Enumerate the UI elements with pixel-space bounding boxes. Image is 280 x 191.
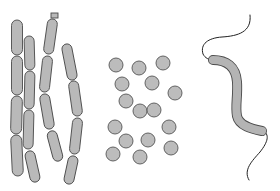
bacillus-cell bbox=[11, 96, 23, 134]
bacilli-chains bbox=[11, 13, 83, 185]
figure-canvas bbox=[0, 0, 280, 191]
coccus-cell bbox=[164, 141, 178, 155]
coccus-cell bbox=[108, 120, 122, 134]
bacillus-cell bbox=[69, 117, 83, 154]
coccus-cell bbox=[119, 134, 133, 148]
coccus-cell bbox=[156, 56, 170, 70]
coccus-cell bbox=[132, 61, 146, 75]
bacillus-cell bbox=[43, 18, 58, 54]
bacillus-cell bbox=[12, 56, 23, 95]
bacillus-cell bbox=[24, 150, 41, 183]
bacillus-chain bbox=[61, 43, 83, 185]
coccus-cell bbox=[168, 86, 182, 100]
bacillus-chain bbox=[23, 36, 41, 183]
bacillus-cell bbox=[12, 20, 23, 55]
bacillus-cell bbox=[63, 155, 79, 185]
coccus-cell bbox=[106, 147, 120, 161]
spirillum-body bbox=[213, 60, 262, 131]
bacillus-stub bbox=[51, 13, 58, 18]
bacteria-shapes-figure bbox=[0, 0, 280, 191]
coccus-cell bbox=[109, 58, 123, 72]
coccus-cell bbox=[145, 76, 159, 90]
flagellum bbox=[202, 15, 250, 60]
flagellum bbox=[247, 131, 267, 180]
coccus-cell bbox=[115, 77, 129, 91]
bacillus-cell bbox=[61, 43, 78, 81]
coccus-cell bbox=[133, 104, 147, 118]
bacillus-cell bbox=[23, 110, 34, 149]
bacillus-cell bbox=[39, 55, 53, 92]
bacillus-cell bbox=[24, 36, 35, 70]
coccus-cell bbox=[141, 133, 155, 147]
bacillus-cell bbox=[24, 71, 35, 109]
cocci-cluster bbox=[106, 56, 182, 164]
bacillus-cell bbox=[11, 135, 24, 177]
coccus-cell bbox=[133, 150, 147, 164]
spirillum bbox=[202, 15, 267, 180]
coccus-cell bbox=[119, 94, 133, 108]
coccus-cell bbox=[147, 103, 161, 117]
coccus-cell bbox=[162, 120, 176, 134]
bacillus-cell bbox=[46, 130, 64, 163]
bacillus-chain bbox=[39, 18, 64, 162]
bacillus-cell bbox=[39, 93, 55, 130]
bacillus-chain bbox=[11, 20, 24, 176]
bacillus-cell bbox=[68, 80, 83, 116]
